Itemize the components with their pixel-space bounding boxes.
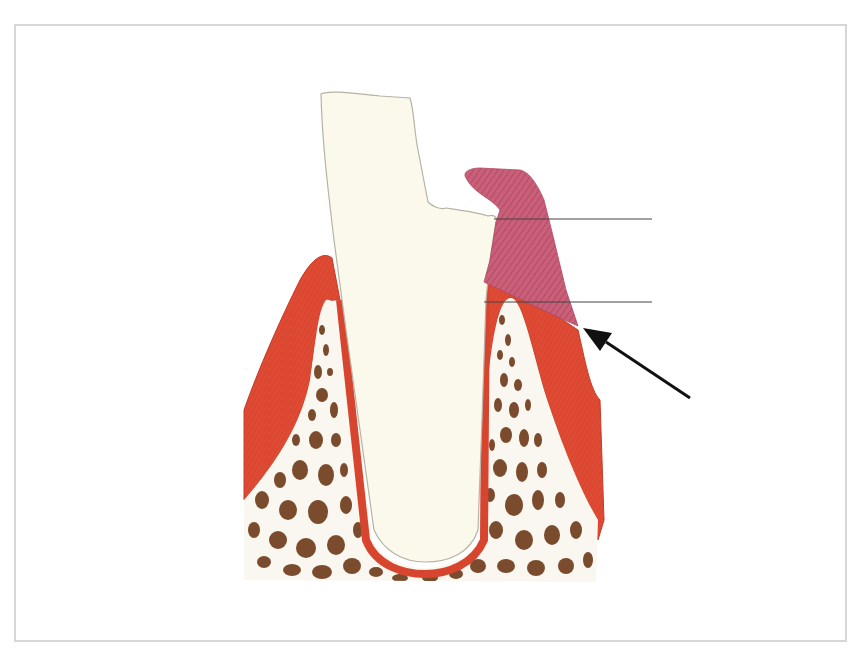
arrow-pointer — [583, 328, 690, 398]
tooth-diagram — [0, 0, 866, 654]
